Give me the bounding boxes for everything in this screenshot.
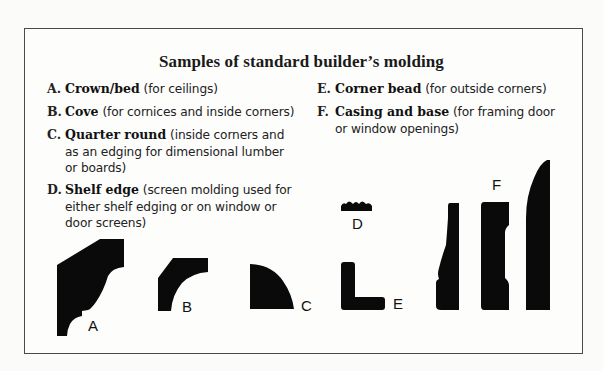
molding-profiles-drawing [0, 0, 603, 371]
shelf-edge-profile-icon [341, 202, 372, 212]
base-profile-3-icon [526, 160, 550, 310]
corner-bead-profile-icon [341, 262, 385, 310]
label-f: F [492, 176, 501, 193]
label-e: E [393, 295, 403, 312]
label-c: C [301, 297, 312, 314]
casing-profile-1-icon [436, 203, 459, 310]
quarter-round-profile-icon [250, 264, 294, 309]
casing-profile-2-icon [481, 202, 509, 310]
label-d: D [352, 215, 363, 232]
label-b: B [182, 298, 192, 315]
label-a: A [88, 317, 98, 334]
